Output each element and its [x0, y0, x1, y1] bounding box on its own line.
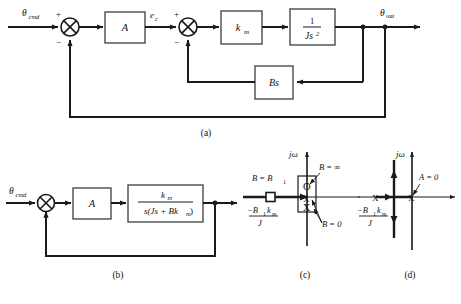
- panel-a-inner-feedback-to-summer2: [188, 40, 255, 82]
- panel-c-leader-B-infinity: [310, 173, 320, 184]
- panel-c-pole-location-label: −B 1 k m J: [247, 205, 278, 228]
- panel-d-pole-label-num-k: k: [377, 205, 381, 215]
- panel-b-tf-denominator: s(Js + Bk: [144, 206, 179, 216]
- panel-a-block-motor-gain-sub: m: [244, 28, 249, 36]
- panel-c-imaginary-axis-label: jω: [288, 149, 298, 159]
- figure-container: θ cmd + − A e c + − k m: [0, 0, 461, 304]
- panel-b-tf-numerator-sub: m: [168, 194, 173, 201]
- panel-b-input-label: θ: [9, 186, 14, 196]
- panel-a-caption: (a): [201, 128, 212, 139]
- panel-a-summer2-minus: −: [174, 37, 179, 47]
- panel-a-error-label-sub: c: [155, 15, 158, 22]
- panel-a-block-motor-gain: [221, 11, 262, 44]
- panel-c-breakaway-square-marker: [266, 193, 275, 202]
- panel-b-input-label-sub: cmd: [16, 191, 28, 198]
- panel-d-locus-vertical-arrow-up: [391, 170, 398, 178]
- panel-d: jω X X A = 0 −B 1 k m J (d): [357, 149, 455, 281]
- panel-d-caption: (d): [404, 270, 415, 281]
- panel-c-caption: (c): [300, 270, 311, 281]
- panel-a-summer2-plus: +: [174, 9, 179, 19]
- panel-c-pole-label-den: J: [258, 218, 263, 228]
- panel-c-label-B-equals-B1: B = B: [252, 173, 272, 183]
- panel-d-label-A-zero: A = 0: [418, 172, 439, 182]
- panel-b-block-amplifier-label: A: [88, 198, 96, 209]
- panel-b: θ cmd A k m s(Js + Bk m ) (b): [6, 185, 237, 281]
- panel-a-error-label: e: [150, 10, 154, 20]
- panel-d-imaginary-axis-label: jω: [395, 149, 405, 159]
- panel-b-tf-denominator-close: ): [190, 206, 193, 216]
- panel-a-summer-1: [61, 18, 79, 36]
- panel-d-pole-marker-left: X: [372, 193, 379, 203]
- panel-d-pole-location-label: −B 1 k m J: [357, 205, 388, 228]
- panel-c-leader-B-zero-lower: [314, 209, 322, 223]
- panel-d-leader-A-zero: [413, 184, 420, 195]
- panel-b-block-transfer-function: [128, 185, 203, 222]
- panel-a-output-label-sub: out: [386, 12, 395, 19]
- panel-d-pole-marker-origin: X: [408, 193, 415, 203]
- panel-a-input-label-sub: cmd: [29, 13, 41, 20]
- panel-d-locus-real-arrow: [385, 194, 392, 201]
- panel-c-zero-marker: O: [303, 181, 311, 192]
- panel-c-pole-label-num-k: k: [267, 205, 271, 215]
- panel-c-label-B-zero: B = 0: [322, 219, 342, 229]
- panel-a-block-plant-denominator: Js: [305, 31, 313, 41]
- panel-c-pole-label-num-pre: −B: [247, 205, 258, 215]
- panel-a-summer-2: [179, 18, 197, 36]
- panel-a-block-amplifier-label: A: [121, 22, 129, 33]
- panel-a-block-plant-numerator: 1: [310, 16, 314, 26]
- panel-a-summer1-plus: +: [56, 9, 61, 19]
- panel-a-output-label: θ: [380, 8, 385, 18]
- panel-a-input-label: θ: [22, 8, 27, 18]
- panel-c-pole-marker-lower: X: [303, 202, 311, 213]
- panel-a-summer1-minus: −: [56, 37, 61, 47]
- panel-c-label-B-infinity: B = ∞: [319, 162, 340, 172]
- panel-b-summer: [38, 195, 55, 212]
- panel-a-block-motor-gain-label: k: [236, 22, 241, 33]
- panel-d-pole-label-den: J: [368, 218, 373, 228]
- panel-a: θ cmd + − A e c + − k m: [8, 8, 420, 139]
- panel-c-label-B-equals-B1-sub: 1: [283, 179, 286, 185]
- panel-c: jω O X X B = B 1 B = ∞ B = 0 −B 1 k m: [243, 149, 360, 281]
- panel-a-block-rate-feedback-label: Bs: [269, 77, 279, 88]
- panel-d-pole-label-num-pre: −B: [357, 205, 368, 215]
- panel-d-locus-vertical-arrow-down: [391, 216, 398, 224]
- panel-b-caption: (b): [112, 270, 123, 281]
